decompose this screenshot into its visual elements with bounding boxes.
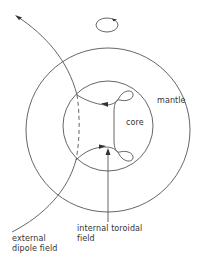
field-diagram (0, 0, 202, 261)
rotation-arrow-icon (96, 18, 118, 32)
external-dipole-label-line1: external (12, 234, 46, 244)
core-label: core (126, 118, 144, 128)
mantle-label: mantle (157, 96, 186, 106)
internal-toroidal-label-line2: field (77, 234, 95, 244)
toroidal-field-upper (76, 91, 133, 161)
external-dipole-label-line2: dipole field (12, 244, 57, 254)
toroidal-pointer (106, 148, 111, 222)
internal-toroidal-label-line1: internal toroidal (77, 224, 142, 234)
dipole-field-line (12, 15, 79, 232)
